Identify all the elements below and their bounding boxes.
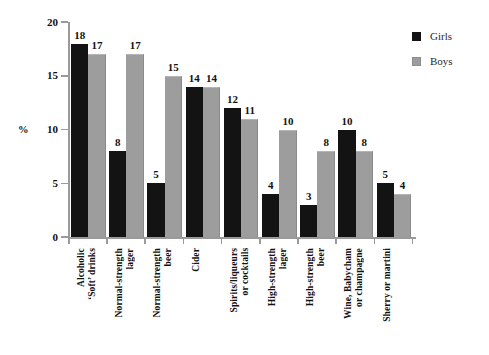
bar-boys (241, 119, 258, 237)
bar-girls (262, 194, 279, 237)
bar-group: 1817 (69, 22, 106, 237)
bar-girls (186, 87, 203, 238)
y-axis-tick-label: 5 (36, 178, 58, 189)
bar-value-label: 17 (122, 40, 147, 51)
bar-group: 54 (375, 22, 412, 237)
bar-group: 410 (260, 22, 297, 237)
bar-girls (224, 108, 241, 237)
x-axis-tick (221, 238, 223, 244)
x-axis-category-label: Alcoholic ‘Soft’ drinks (76, 248, 97, 300)
bar-value-label: 4 (390, 180, 415, 191)
y-axis-tick (61, 21, 68, 23)
bar-boys (88, 54, 105, 237)
x-axis-category-label: Sherry or martini (382, 248, 393, 322)
y-axis-tick (61, 236, 68, 238)
bar-girls (71, 44, 88, 238)
x-axis-tick (335, 238, 337, 244)
legend-label: Boys (430, 56, 453, 67)
bar-girls (377, 183, 394, 237)
bar-boys (317, 151, 334, 237)
bar-boys (356, 151, 373, 237)
y-axis-tick (61, 75, 68, 77)
bar-boys (203, 87, 220, 238)
bar-group: 38 (298, 22, 335, 237)
bar-value-label: 10 (334, 116, 359, 127)
bar-value-label: 12 (220, 94, 245, 105)
x-axis-category-label: Normal-strength beer (152, 248, 173, 317)
x-axis-tick (68, 238, 70, 244)
x-axis-tick (259, 238, 261, 244)
bar-value-label: 8 (352, 137, 377, 148)
x-axis-category-label: Wine, Babycham or champagne (343, 248, 364, 319)
bar-boys (126, 54, 143, 237)
legend-swatch-icon (412, 32, 421, 41)
x-axis-tick (144, 238, 146, 244)
x-axis-category-label: Spirits/liqueurs or cocktails (229, 248, 250, 312)
bar-boys (394, 194, 411, 237)
x-axis-category-label: Cider (191, 248, 202, 272)
bar-value-label: 8 (313, 137, 338, 148)
bar-girls (109, 151, 126, 237)
bar-boys (165, 76, 182, 237)
y-axis-tick-label: 10 (36, 124, 58, 135)
bar-group: 817 (107, 22, 144, 237)
legend-label: Girls (430, 31, 452, 42)
bar-group: 1414 (184, 22, 221, 237)
bar-value-label: 17 (84, 40, 109, 51)
x-axis-tick (374, 238, 376, 244)
y-axis-tick-label: 0 (36, 232, 58, 243)
bar-boys (279, 130, 296, 238)
x-axis-tick (412, 238, 414, 244)
bar-chart: % 05101520 1817817515141412114103810854 … (0, 0, 489, 355)
x-axis-line (68, 237, 416, 239)
bar-value-label: 5 (373, 169, 398, 180)
bar-girls (300, 205, 317, 237)
x-axis-category-label: High-strength lager (267, 248, 288, 306)
y-axis-tick (61, 129, 68, 131)
y-axis-tick-label: 15 (36, 70, 58, 81)
legend-item[interactable]: Boys (412, 56, 486, 67)
bar-value-label: 10 (275, 116, 300, 127)
bar-value-label: 11 (237, 105, 262, 116)
bar-group: 1211 (222, 22, 259, 237)
y-axis-tick (61, 183, 68, 185)
x-axis-tick (106, 238, 108, 244)
bar-group: 515 (145, 22, 182, 237)
legend-swatch-icon (412, 57, 421, 66)
x-axis-category-label: High-strength beer (305, 248, 326, 306)
bar-value-label: 15 (161, 62, 186, 73)
x-axis-category-label: Normal-strength lager (114, 248, 135, 317)
plot-area: 1817817515141412114103810854 (69, 22, 416, 237)
legend: GirlsBoys (412, 31, 486, 81)
y-axis-title: % (18, 124, 29, 135)
x-axis-tick (183, 238, 185, 244)
bar-value-label: 18 (67, 30, 92, 41)
bar-group: 108 (336, 22, 373, 237)
x-axis-tick (297, 238, 299, 244)
y-axis-tick-label: 20 (36, 17, 58, 28)
bar-value-label: 14 (199, 73, 224, 84)
bar-girls (147, 183, 164, 237)
legend-item[interactable]: Girls (412, 31, 486, 42)
